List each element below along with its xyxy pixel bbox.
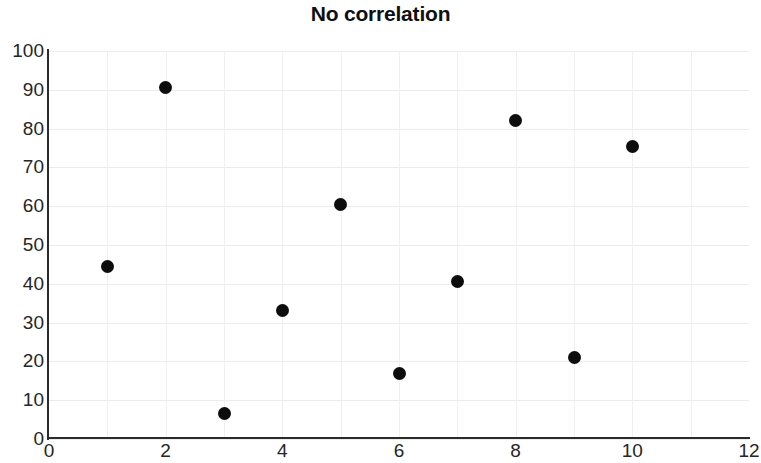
gridline-vertical — [341, 51, 342, 439]
y-axis-tick-label: 60 — [0, 196, 44, 215]
data-point — [334, 198, 347, 211]
x-axis-tick-label: 12 — [719, 441, 761, 461]
scatter-chart: No correlation 0102030405060708090100 02… — [0, 0, 761, 463]
plot-area — [49, 51, 749, 439]
gridline-vertical — [107, 51, 108, 439]
x-axis-tick-label: 4 — [252, 441, 312, 461]
data-point — [159, 81, 172, 94]
gridline-vertical — [516, 51, 517, 439]
gridline-vertical — [574, 51, 575, 439]
y-axis-tick-label: 70 — [0, 157, 44, 176]
x-axis-tick-label: 6 — [369, 441, 429, 461]
y-axis-tick-label: 90 — [0, 80, 44, 99]
data-point — [451, 275, 464, 288]
gridline-vertical — [691, 51, 692, 439]
chart-title: No correlation — [0, 2, 761, 26]
y-axis-tick-label: 10 — [0, 390, 44, 409]
gridline-vertical — [224, 51, 225, 439]
y-axis-tick-label: 50 — [0, 235, 44, 254]
y-axis-tick-label: 40 — [0, 274, 44, 293]
gridline-vertical — [632, 51, 633, 439]
data-point — [626, 140, 639, 153]
x-axis-line — [47, 437, 750, 439]
y-axis-tick-label: 100 — [0, 41, 44, 60]
y-axis-line — [47, 49, 49, 440]
gridline-vertical — [399, 51, 400, 439]
x-axis-tick-label: 0 — [19, 441, 79, 461]
x-axis-tick-label: 2 — [136, 441, 196, 461]
data-point — [509, 114, 522, 127]
data-point — [101, 260, 114, 273]
y-axis-tick-label: 30 — [0, 313, 44, 332]
gridline-vertical — [282, 51, 283, 439]
y-axis-tick-labels: 0102030405060708090100 — [0, 0, 44, 463]
x-axis-tick-label: 8 — [486, 441, 546, 461]
y-axis-tick-label: 80 — [0, 119, 44, 138]
data-point — [393, 367, 406, 380]
gridline-vertical — [457, 51, 458, 439]
data-point — [276, 304, 289, 317]
y-axis-tick-label: 20 — [0, 351, 44, 370]
data-point — [568, 351, 581, 364]
x-axis-tick-label: 10 — [602, 441, 662, 461]
data-point — [218, 407, 231, 420]
gridline-vertical — [166, 51, 167, 439]
